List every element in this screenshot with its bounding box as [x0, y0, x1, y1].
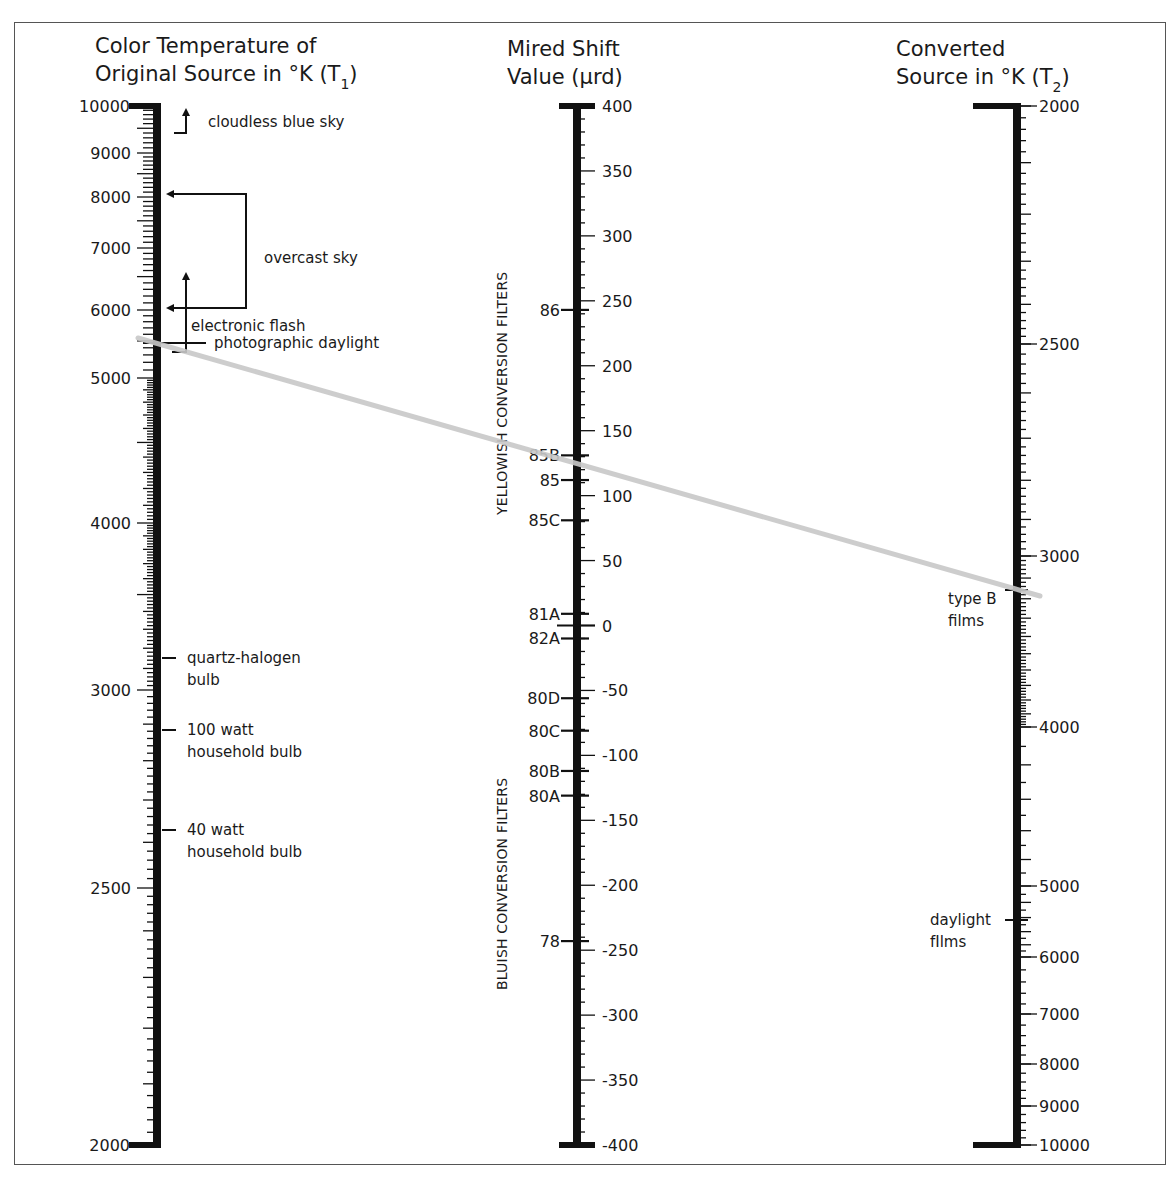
- annotation-film-type: daylight: [930, 911, 991, 929]
- nomogram-chart: Color Temperature ofOriginal Source in °…: [0, 0, 1175, 1185]
- filter-label: 78: [540, 932, 560, 951]
- t1-tick-label: 2000: [89, 1136, 130, 1155]
- t2-tick-label: 7000: [1039, 1005, 1080, 1024]
- annotation-electronic-flash: electronic flash: [191, 317, 305, 335]
- t1-tick-label: 9000: [90, 144, 131, 163]
- mired-tick-label: 300: [602, 227, 633, 246]
- annotation-photographic-daylight: photographic daylight: [214, 334, 379, 352]
- t2-tick-label: 2000: [1039, 97, 1080, 116]
- mired-tick-label: 400: [602, 97, 633, 116]
- annotation-film-type: films: [948, 612, 984, 630]
- annotation-light-source: quartz-halogen: [187, 649, 301, 667]
- bluish-filters-label: BLUISH CONVERSION FILTERS: [494, 778, 510, 990]
- mired-tick-label: 0: [602, 617, 612, 636]
- axis-title: Color Temperature of: [95, 34, 317, 58]
- t2-tick-label: 4000: [1039, 718, 1080, 737]
- annotation-light-source: 40 watt: [187, 821, 244, 839]
- annotations: cloudless blue skyovercast skyelectronic…: [143, 108, 1028, 951]
- t2-tick-label: 2500: [1039, 335, 1080, 354]
- example-line: [138, 338, 1040, 596]
- mired-tick-label: -100: [602, 746, 638, 765]
- axis-title: Value (µrd): [507, 65, 623, 89]
- axis-title: Source in °K (T2): [896, 65, 1070, 95]
- annotation-film-type: fIlms: [930, 933, 966, 951]
- mired-tick-label: -200: [602, 876, 638, 895]
- axis-spine: [153, 103, 161, 1148]
- filter-label: 85C: [528, 511, 560, 530]
- t2-tick-label: 8000: [1039, 1055, 1080, 1074]
- filter-label: 81A: [529, 605, 560, 624]
- axis-title: Original Source in °K (T1): [95, 62, 358, 92]
- t1-tick-label: 4000: [90, 514, 131, 533]
- annotation-overcast-sky: overcast sky: [264, 249, 358, 267]
- mired-tick-label: 150: [602, 422, 633, 441]
- axis-spine: [1013, 103, 1021, 1148]
- annotation-light-source: household bulb: [187, 843, 302, 861]
- example-conversion-line: [138, 338, 1040, 596]
- t2-tick-label: 9000: [1039, 1097, 1080, 1116]
- axis-title: Converted: [896, 37, 1005, 61]
- filter-label: 86: [540, 301, 560, 320]
- filter-label: 85: [540, 471, 560, 490]
- filter-label: 82A: [529, 629, 560, 648]
- t2-tick-label: 5000: [1039, 877, 1080, 896]
- mired-tick-label: -350: [602, 1071, 638, 1090]
- filter-label: 80C: [528, 722, 560, 741]
- filter-label: 80A: [529, 787, 560, 806]
- mired-tick-label: -150: [602, 811, 638, 830]
- t1-tick-label: 2500: [90, 879, 131, 898]
- mired-tick-label: 100: [602, 487, 633, 506]
- axis-title: Mired Shift: [507, 37, 620, 61]
- annotation-cloudless-blue-sky: cloudless blue sky: [208, 113, 345, 131]
- mired-tick-label: -400: [602, 1136, 638, 1155]
- mired-tick-label: 250: [602, 292, 633, 311]
- t2-tick-label: 6000: [1039, 948, 1080, 967]
- mired-tick-label: 50: [602, 552, 622, 571]
- annotation-light-source: 100 watt: [187, 721, 254, 739]
- mired-tick-label: 200: [602, 357, 633, 376]
- t1-tick-label: 6000: [90, 301, 131, 320]
- annotation-light-source: household bulb: [187, 743, 302, 761]
- filter-label: 80D: [527, 689, 560, 708]
- t1-tick-label: 8000: [90, 188, 131, 207]
- mired-tick-label: 350: [602, 162, 633, 181]
- mired-tick-label: -300: [602, 1006, 638, 1025]
- annotation-film-type: type B: [948, 590, 997, 608]
- t1-tick-label: 3000: [90, 681, 131, 700]
- axes: 1000090008000700060005000400030002500200…: [79, 97, 1090, 1155]
- filter-label: 80B: [529, 762, 560, 781]
- t1-tick-label: 10000: [79, 97, 130, 116]
- t1-tick-label: 7000: [90, 239, 131, 258]
- annotation-light-source: bulb: [187, 671, 220, 689]
- t2-tick-label: 10000: [1039, 1136, 1090, 1155]
- yellowish-filters-label: YELLOWISH CONVERSION FILTERS: [494, 272, 510, 516]
- axis-titles: Color Temperature ofOriginal Source in °…: [95, 34, 1070, 95]
- mired-tick-label: -250: [602, 941, 638, 960]
- t1-tick-label: 5000: [90, 369, 131, 388]
- t2-tick-label: 3000: [1039, 547, 1080, 566]
- axis-cap: [129, 103, 157, 109]
- mired-tick-label: -50: [602, 681, 628, 700]
